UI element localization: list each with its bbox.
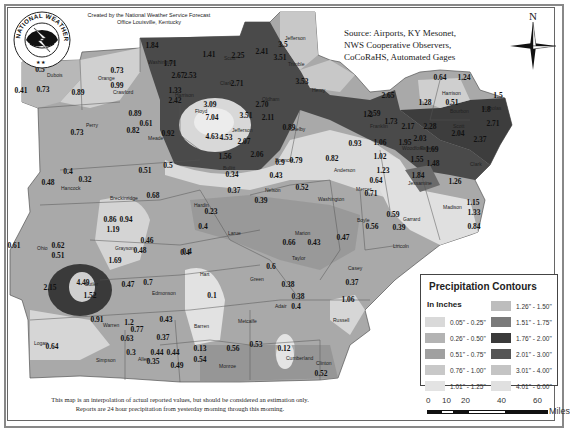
county-label: Jefferson xyxy=(232,127,253,133)
precip-reading: 1.48 xyxy=(426,159,439,168)
legend-label: 1.26" - 1.50" xyxy=(516,303,552,310)
precip-reading: 0.94 xyxy=(119,215,132,224)
precip-reading: 0.12 xyxy=(277,344,290,353)
county-label: Jefferson xyxy=(285,35,306,41)
legend-panel: Precipitation Contours In Inches 0.05" -… xyxy=(420,274,558,386)
disclaimer-line-1: This map is an interpolation of actual r… xyxy=(20,395,340,404)
precip-reading: 0.54 xyxy=(193,355,206,364)
precip-reading: 0.64 xyxy=(45,342,58,351)
source-line-1: Source: Airports, KY Mesonet, xyxy=(344,27,456,39)
precip-reading: 0.48 xyxy=(41,178,54,187)
precip-reading: 0.52 xyxy=(314,369,327,378)
precip-reading: 0.62 xyxy=(51,241,64,250)
precip-reading: 2.15 xyxy=(43,283,56,292)
svg-text:★ ★: ★ ★ xyxy=(36,60,46,65)
precip-reading: 0.84 xyxy=(467,222,480,231)
source-text: Source: Airports, KY Mesonet, NWS Cooper… xyxy=(344,27,456,63)
county-label: Madison xyxy=(443,204,462,210)
precip-reading: 1.95 xyxy=(398,138,411,147)
precip-reading: 1.55 xyxy=(410,155,423,164)
precip-reading: 1.69 xyxy=(425,145,438,154)
county-label: Anderson xyxy=(334,167,356,173)
precip-reading: 0.48 xyxy=(133,246,146,255)
scale-tick: 60 xyxy=(533,396,542,405)
legend-item: 4.01" - 6.00" xyxy=(491,380,552,392)
county-label: Grayson xyxy=(115,245,134,251)
county-label: Casey xyxy=(348,265,363,271)
legend-item: 1.26" - 1.50" xyxy=(491,300,552,312)
legend-label: 0.26" - 0.50" xyxy=(450,335,486,342)
precip-reading: 1.19 xyxy=(106,225,119,234)
county-label: Trimble xyxy=(288,61,305,67)
precip-reading: 2.17 xyxy=(401,122,414,131)
precip-reading: 1.73 xyxy=(384,117,397,126)
precip-reading: 0.35 xyxy=(146,357,159,366)
legend-item: 0.76" - 1.00" xyxy=(425,364,486,376)
precip-reading: 1.52 xyxy=(83,291,96,300)
precip-reading: 0.4 xyxy=(198,222,208,231)
precip-reading: 2.11 xyxy=(262,113,275,122)
precip-reading: 0.73 xyxy=(110,66,123,75)
precip-reading: 1.41 xyxy=(202,50,215,59)
legend-label: 0.05" - 0.25" xyxy=(450,319,486,326)
legend-item: 1.01" - 1.25" xyxy=(425,380,486,392)
precip-reading: 1.71 xyxy=(163,59,176,68)
legend-swatch xyxy=(491,301,511,311)
county-label: Henry xyxy=(312,87,326,93)
precip-reading: 0.71 xyxy=(364,189,377,198)
precip-reading: 0.89 xyxy=(71,88,84,97)
precip-reading: 0.56 xyxy=(365,222,378,231)
precip-reading: 0.4 xyxy=(182,247,192,256)
precip-reading: 0.53 xyxy=(249,340,262,349)
county-label: Lincoln xyxy=(393,243,409,249)
legend-swatch xyxy=(425,333,445,343)
county-label: Garrard xyxy=(403,216,420,222)
precip-reading: 0.52 xyxy=(295,183,308,192)
precip-reading: 0.37 xyxy=(345,278,358,287)
compass-rose-icon: N xyxy=(508,10,558,72)
county-label: Clinton xyxy=(316,360,332,366)
county-label: Edmonson xyxy=(152,290,176,296)
precip-reading: 1.06 xyxy=(341,295,354,304)
county-label: Clark xyxy=(470,161,482,167)
precip-reading: 0.51 xyxy=(51,251,64,260)
legend-subtitle: In Inches xyxy=(427,300,462,309)
scale-bar: 0 10 20 40 60 Miles xyxy=(425,396,565,430)
disclaimer-line-2: Reports are 24 hour precipitation from y… xyxy=(20,404,340,413)
scale-tick: 10 xyxy=(442,396,451,405)
county-label: Perry xyxy=(86,122,98,128)
county-label: Adair xyxy=(275,303,287,309)
precip-reading: 2.25 xyxy=(231,51,244,60)
county-label: Dubois xyxy=(47,72,63,78)
precip-reading: 0.46 xyxy=(140,236,153,245)
precip-reading: 0.37 xyxy=(156,333,169,342)
precip-reading: 2.59 xyxy=(367,109,380,118)
precip-reading: 0.1 xyxy=(207,291,217,300)
county-label: Harrison xyxy=(442,90,461,96)
legend-label: 2.01" - 3.00" xyxy=(516,351,552,358)
precip-reading: 4.53 xyxy=(219,133,232,142)
precip-reading: 4.49 xyxy=(76,278,89,287)
precip-reading: 0.38 xyxy=(281,280,294,289)
legend-swatch xyxy=(425,349,445,359)
source-line-2: NWS Cooperative Observers, xyxy=(344,39,456,51)
precip-reading: 0.51 xyxy=(445,98,458,107)
precip-reading: 0.32 xyxy=(78,175,91,184)
precip-reading: 1.33 xyxy=(168,86,181,95)
legend-swatch xyxy=(425,381,445,391)
legend-item: 2.01" - 3.00" xyxy=(491,348,552,360)
precip-reading: 0.92 xyxy=(161,129,174,138)
precip-reading: 1.69 xyxy=(108,256,121,265)
legend-swatch xyxy=(491,381,511,391)
precip-reading: 1.15 xyxy=(466,198,479,207)
precip-reading: 0.4 xyxy=(63,167,73,176)
county-label: Marion xyxy=(295,230,311,236)
precip-reading: 0.61 xyxy=(7,241,20,250)
precip-reading: 0.68 xyxy=(146,191,159,200)
precip-reading: 2.65 xyxy=(381,91,394,100)
legend-item: 1.76" - 2.00" xyxy=(491,332,552,344)
precip-reading: 0.34 xyxy=(225,170,238,179)
scale-tick: 0 xyxy=(426,396,430,405)
precip-reading: 0.38 xyxy=(291,292,304,301)
legend-label: 0.76" - 1.00" xyxy=(450,367,486,374)
